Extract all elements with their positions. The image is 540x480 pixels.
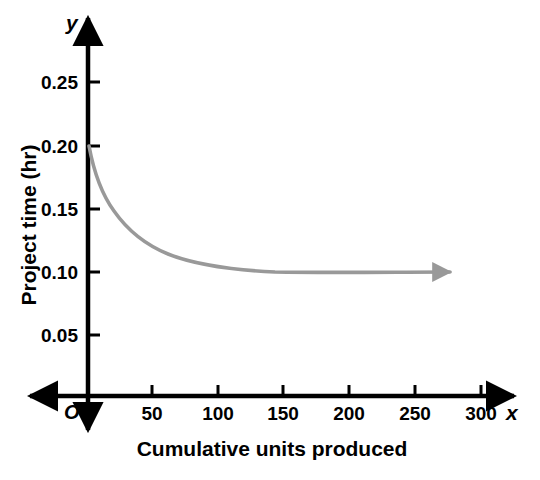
- y-tick-label-0.20: 0.20: [2, 137, 78, 156]
- y-tick-label-0.10: 0.10: [2, 263, 78, 282]
- x-tick-label-250: 250: [399, 404, 431, 423]
- x-tick-label-100: 100: [202, 404, 234, 423]
- origin-label: O: [64, 402, 80, 422]
- learning-curve: [89, 146, 450, 272]
- y-tick-label-0.25: 0.25: [2, 73, 78, 92]
- y-tick-label-0.05: 0.05: [2, 326, 78, 345]
- y-axis-name: y: [66, 12, 78, 33]
- x-tick-label-150: 150: [267, 404, 299, 423]
- chart-figure: 0.25 0.20 0.15 0.10 0.05 50 100 150 200 …: [0, 0, 540, 480]
- x-axis-title: Cumulative units produced: [137, 438, 408, 459]
- x-axis-name: x: [506, 402, 518, 423]
- x-tick-label-50: 50: [141, 404, 162, 423]
- y-axis-title: Project time (hr): [18, 144, 39, 305]
- x-tick-label-200: 200: [333, 404, 365, 423]
- y-tick-label-0.15: 0.15: [2, 200, 78, 219]
- x-tick-label-300: 300: [465, 404, 497, 423]
